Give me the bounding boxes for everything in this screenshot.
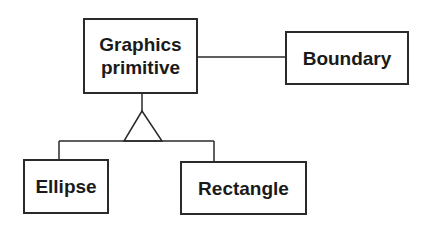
node-boundary[interactable]: Boundary [285, 31, 409, 85]
node-graphics-primitive-label: Graphics primitive [99, 33, 181, 79]
label-line-2: primitive [99, 56, 181, 79]
node-ellipse-label: Ellipse [35, 175, 96, 198]
node-graphics-primitive[interactable]: Graphics primitive [83, 18, 198, 94]
node-rectangle[interactable]: Rectangle [180, 161, 307, 215]
node-ellipse[interactable]: Ellipse [23, 159, 109, 214]
node-boundary-label: Boundary [303, 47, 392, 70]
label-line-1: Graphics [99, 33, 181, 56]
diagram-canvas: Graphics primitive Boundary Ellipse Rect… [0, 0, 431, 227]
node-rectangle-label: Rectangle [198, 177, 289, 200]
generalization-triangle-icon [124, 111, 162, 141]
